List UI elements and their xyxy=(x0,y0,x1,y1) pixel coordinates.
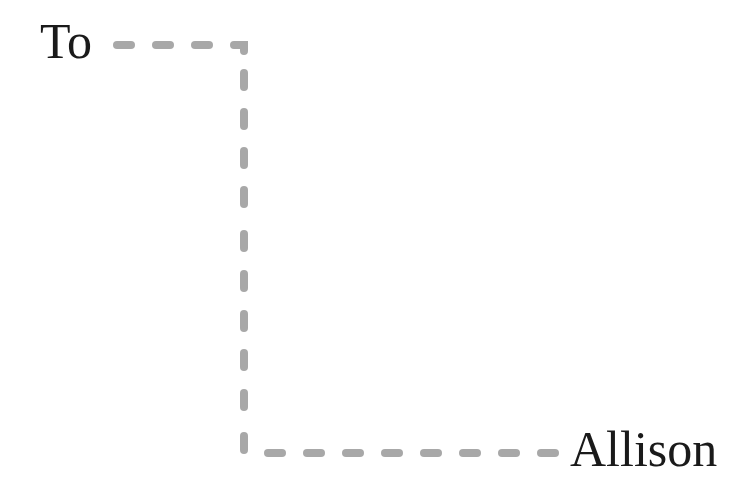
dashed-connector-line xyxy=(0,0,742,483)
connector-dashes xyxy=(117,45,555,453)
target-label: Allison xyxy=(570,424,717,474)
